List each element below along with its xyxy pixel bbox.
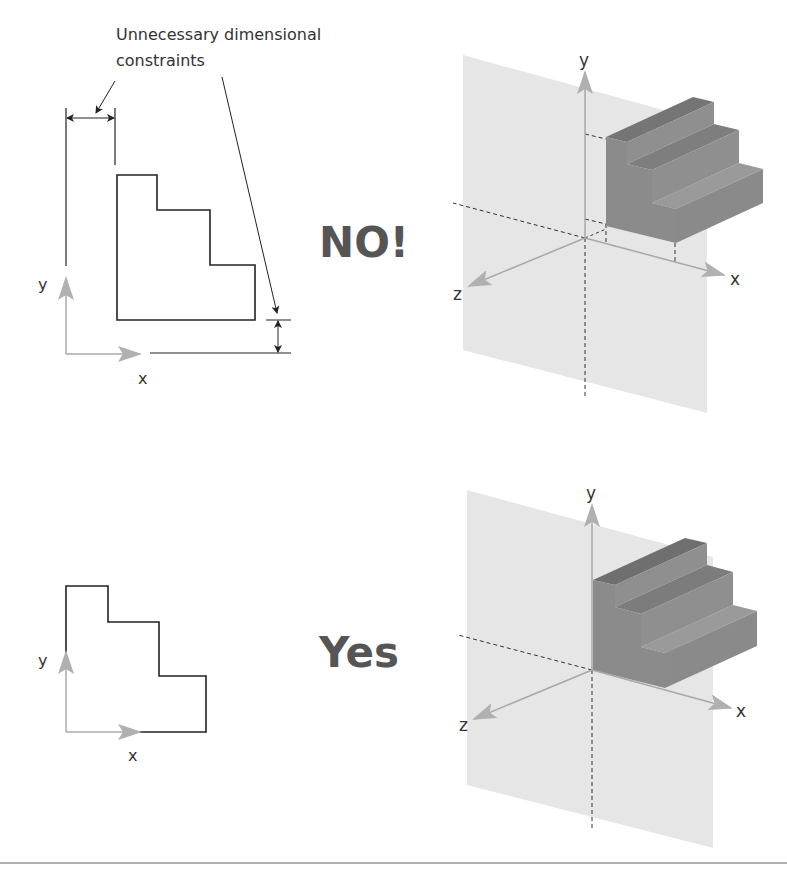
z-axis-label: z — [459, 715, 468, 735]
verdict-no: NO! — [319, 218, 409, 267]
figure-canvas: Unnecessary dimensional constraints y x … — [0, 0, 787, 878]
sketch-y-label: y — [38, 275, 47, 294]
sketch-over-constrained: Unnecessary dimensional constraints y x — [38, 25, 321, 388]
sketch-x-label: x — [128, 746, 137, 765]
leader-line-vertical-dim — [222, 77, 277, 313]
sketch-properly-constrained: y x — [38, 586, 206, 765]
annotation-text-line1: Unnecessary dimensional — [116, 25, 321, 44]
annotation-text-line2: constraints — [116, 51, 205, 70]
verdict-yes: Yes — [318, 628, 399, 677]
sketch-y-label: y — [38, 651, 47, 670]
leader-line-horizontal-dim — [96, 81, 115, 113]
x-axis-label: x — [736, 701, 746, 721]
staircase-profile — [117, 175, 255, 320]
staircase-profile — [66, 586, 206, 732]
solid-view-offset: y x z — [453, 50, 763, 413]
solid-view-origin: y x z — [458, 483, 757, 848]
bottom-divider — [0, 862, 787, 864]
z-axis-label: z — [453, 284, 462, 304]
y-axis-label: y — [586, 483, 596, 503]
sketch-x-label: x — [138, 369, 147, 388]
x-axis-label: x — [730, 269, 740, 289]
y-axis-label: y — [579, 50, 589, 70]
